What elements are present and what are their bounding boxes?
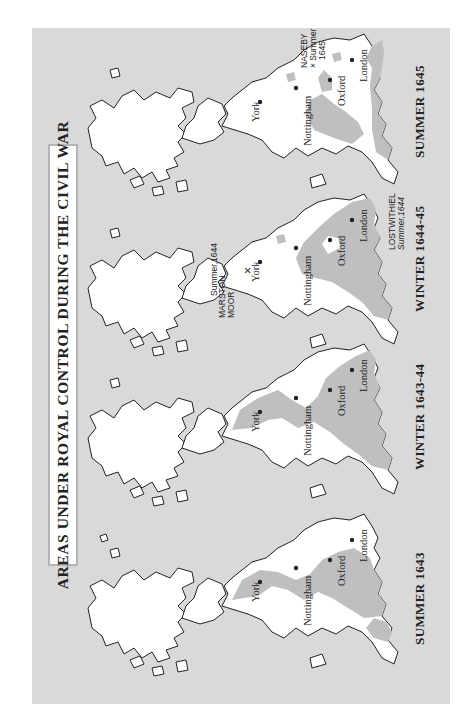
nottingham-dot	[294, 566, 298, 570]
city-label-nottingham: Nottingham	[302, 406, 313, 456]
caption-winter-1643-44: WINTER 1643-44	[412, 364, 428, 470]
london-dot	[350, 218, 354, 222]
city-label-oxford: Oxford	[336, 386, 347, 416]
battle-label-marston-moor: MARSTON MOOR	[218, 276, 236, 318]
caption-summer-1643: SUMMER 1643	[412, 552, 428, 645]
oxford-dot	[328, 238, 332, 242]
battle-marker-marston-moor: ×	[244, 267, 253, 274]
city-label-london: London	[358, 49, 369, 82]
caption-winter-1644-45: WINTER 1644-45	[412, 206, 428, 312]
britain-outline-map	[82, 18, 412, 218]
city-label-york: York	[250, 411, 261, 432]
city-label-oxford: Oxford	[336, 556, 347, 586]
nottingham-dot	[294, 396, 298, 400]
oxford-dot	[328, 558, 332, 562]
scotland-landmass	[88, 534, 226, 676]
title-box: AREAS UNDER ROYAL CONTROL DURING THE CIV…	[48, 144, 78, 566]
battle-label-naseby: NASEBY × Summer 1645	[300, 29, 327, 68]
city-label-london: London	[358, 529, 369, 562]
city-label-nottingham: Nottingham	[302, 96, 313, 146]
london-dot	[350, 58, 354, 62]
scotland-landmass	[88, 378, 226, 506]
battle-date-marston-moor: Summer,1644	[210, 243, 219, 296]
britain-outline-map	[82, 498, 412, 698]
nottingham-dot	[294, 246, 298, 250]
page-title: AREAS UNDER ROYAL CONTROL DURING THE CIV…	[54, 121, 72, 590]
city-label-oxford: Oxford	[336, 76, 347, 106]
city-label-oxford: Oxford	[336, 236, 347, 266]
oxford-dot	[328, 78, 332, 82]
city-label-nottingham: Nottingham	[302, 256, 313, 306]
map-summer-1645: York Nottingham Oxford London NASEBY × S…	[82, 18, 412, 218]
london-dot	[350, 538, 354, 542]
oxford-dot	[328, 388, 332, 392]
city-label-york: York	[250, 101, 261, 122]
map-summer-1643: York Nottingham Oxford London	[82, 498, 412, 698]
scotland-landmass	[88, 228, 226, 356]
nottingham-dot	[294, 86, 298, 90]
city-label-york: York	[250, 581, 261, 602]
scotland-landmass	[88, 68, 226, 196]
caption-summer-1645: SUMMER 1645	[412, 65, 428, 158]
city-label-nottingham: Nottingham	[302, 576, 313, 626]
map-page: AREAS UNDER ROYAL CONTROL DURING THE CIV…	[0, 0, 469, 718]
